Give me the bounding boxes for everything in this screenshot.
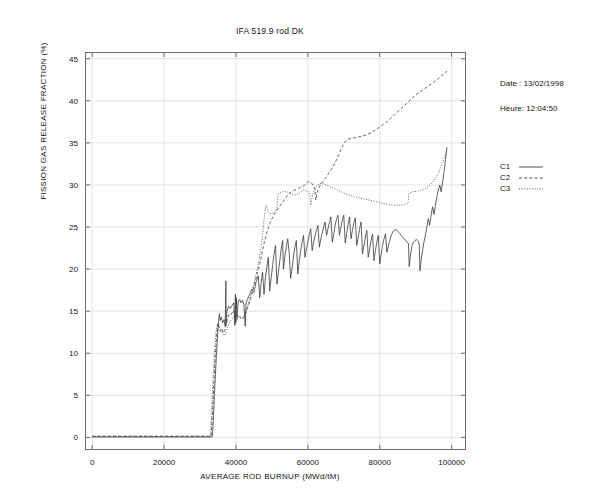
y-tick-label: 5 [74, 391, 78, 400]
x-tick-label: 100000 [438, 458, 465, 467]
plot-area: 051015202530354045 020000400006000080000… [85, 52, 466, 450]
y-tick-label: 15 [69, 307, 78, 316]
legend-swatch-solid [518, 163, 544, 171]
info-block: Date : 13/02/1998 Heure: 12:04:50 [500, 80, 564, 130]
legend-item-c3[interactable]: C3 [500, 183, 544, 194]
legend-label: C1 [500, 162, 518, 171]
x-axis-title: AVERAGE ROD BURNUP (MWd/tM) [0, 472, 540, 481]
y-tick-label: 45 [69, 54, 78, 63]
x-tick-label: 0 [90, 458, 94, 467]
legend-label: C3 [500, 184, 518, 193]
y-axis-title-wrap: FISSION GAS RELEASE FRACTION (%) [23, 0, 63, 320]
legend-swatch-dashed [518, 174, 544, 182]
y-tick-label: 25 [69, 223, 78, 232]
y-axis-title: FISSION GAS RELEASE FRACTION (%) [39, 42, 48, 200]
legend-item-c1[interactable]: C1 [500, 161, 544, 172]
series-line-c3 [92, 150, 447, 437]
series-line-c1 [92, 147, 447, 437]
legend-item-c2[interactable]: C2 [500, 172, 544, 183]
x-tick-label: 80000 [369, 458, 391, 467]
series-layer [92, 71, 447, 437]
chart-title: IFA 519.9 rod DK [0, 26, 540, 36]
chart-figure: IFA 519.9 rod DK FISSION GAS RELEASE FRA… [0, 0, 604, 503]
y-tick-label: 20 [69, 265, 78, 274]
x-tick-label: 60000 [297, 458, 319, 467]
legend-label: C2 [500, 173, 518, 182]
time-text: Heure: 12:04:50 [500, 105, 564, 113]
series-line-c2 [92, 71, 447, 436]
x-tick-label: 20000 [153, 458, 175, 467]
date-text: Date : 13/02/1998 [500, 80, 564, 88]
y-tick-label: 30 [69, 180, 78, 189]
y-tick-label: 0 [74, 433, 78, 442]
y-tick-label: 35 [69, 138, 78, 147]
plot-canvas [85, 52, 466, 450]
y-tick-label: 40 [69, 96, 78, 105]
y-tick-label: 10 [69, 349, 78, 358]
legend: C1C2C3 [500, 161, 544, 194]
legend-swatch-dotted [518, 185, 544, 193]
x-tick-label: 40000 [225, 458, 247, 467]
